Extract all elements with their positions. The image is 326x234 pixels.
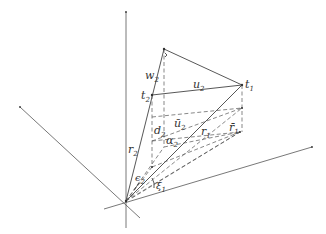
- label-u2: u2: [193, 78, 205, 93]
- coordinate-axes: [19, 11, 313, 228]
- top-to-t1: [164, 49, 242, 85]
- label-eps2: ϵ2: [135, 172, 146, 186]
- label-r1: r1: [201, 125, 211, 140]
- label-w2: w2: [145, 69, 159, 84]
- point-t1: [241, 84, 243, 86]
- point-t2: [151, 94, 153, 96]
- label-t1: t1: [245, 78, 254, 93]
- label-r2: r2: [128, 143, 138, 158]
- point-top: [163, 48, 165, 50]
- labels: t1 t2 w2 u2 ū2 d2 r1 r̄1 r2 α2 ϵ2 ξ1: [128, 69, 254, 194]
- label-t2: t2: [141, 89, 150, 104]
- label-r1bar: r̄1: [229, 121, 239, 136]
- label-u2bar: ū2: [174, 117, 186, 132]
- label-xi1: ξ1: [156, 180, 166, 194]
- label-alpha2: α2: [166, 134, 178, 149]
- left-axis: [20, 107, 140, 218]
- label-d2: d2: [154, 124, 166, 139]
- point-origin: [125, 200, 127, 202]
- vector-diagram: t1 t2 w2 u2 ū2 d2 r1 r̄1 r2 α2 ϵ2 ξ1: [0, 0, 326, 234]
